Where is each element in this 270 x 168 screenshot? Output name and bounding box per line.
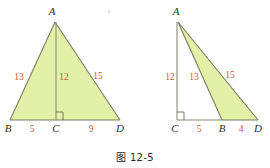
left-length-ab: 13 xyxy=(14,72,24,82)
left-length-ad: 15 xyxy=(93,71,103,81)
figure-canvas: A B C D 13 12 15 5 9 A C xyxy=(0,0,270,168)
right-length-cb: 5 xyxy=(197,124,202,134)
right-vertex-label-d: D xyxy=(253,122,262,134)
geometry-figure: A B C D 13 12 15 5 9 A C xyxy=(0,0,270,168)
right-length-ab: 13 xyxy=(189,72,199,82)
left-length-bc: 5 xyxy=(30,124,35,134)
right-vertex-label-a: A xyxy=(172,5,180,17)
right-panel: A C B D 12 13 15 5 4 xyxy=(165,5,262,134)
left-length-cd: 9 xyxy=(89,124,94,134)
right-vertex-label-c: C xyxy=(171,122,179,134)
right-length-bd: 4 xyxy=(239,124,244,134)
right-right-angle-mark-at-c xyxy=(177,112,184,120)
figure-caption: 图 12-5 xyxy=(0,149,270,164)
right-length-ad: 15 xyxy=(225,70,235,80)
left-panel: A B C D 13 12 15 5 9 xyxy=(5,5,124,134)
left-vertex-label-b: B xyxy=(5,122,12,134)
right-vertex-label-b: B xyxy=(219,122,226,134)
left-vertex-label-d: D xyxy=(115,122,124,134)
left-vertex-label-c: C xyxy=(52,122,60,134)
left-length-ac: 12 xyxy=(59,72,69,82)
left-vertex-label-a: A xyxy=(48,5,56,17)
right-length-ac: 12 xyxy=(165,72,175,82)
